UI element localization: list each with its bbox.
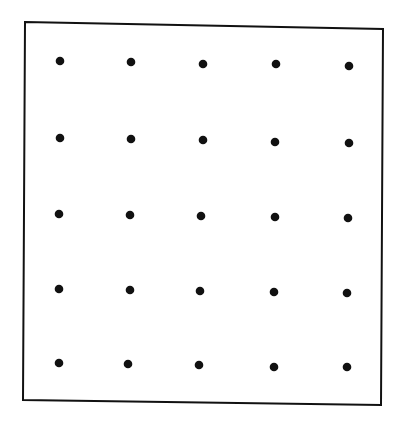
grid-dot-r3-c3	[197, 212, 206, 221]
dot-grid-diagram	[0, 0, 399, 427]
grid-dot-r5-c4	[270, 363, 279, 372]
grid-dot-r4-c4	[270, 288, 279, 297]
grid-dot-r3-c4	[271, 213, 280, 222]
grid-dot-r4-c2	[126, 286, 135, 295]
grid-dot-r1-c4	[272, 60, 281, 69]
grid-dot-r4-c5	[343, 289, 352, 298]
grid-dot-r2-c1	[56, 134, 65, 143]
grid-dot-r3-c1	[55, 210, 64, 219]
grid-dot-r4-c1	[55, 285, 64, 294]
grid-dot-r2-c2	[127, 135, 136, 144]
grid-dot-r5-c5	[343, 363, 352, 372]
grid-dot-r5-c2	[124, 360, 133, 369]
grid-dot-r3-c5	[344, 214, 353, 223]
grid-dot-r1-c3	[199, 60, 208, 69]
grid-dot-r2-c5	[345, 139, 354, 148]
grid-dot-r5-c3	[195, 361, 204, 370]
grid-dot-r5-c1	[55, 359, 64, 368]
grid-dot-r2-c3	[199, 136, 208, 145]
grid-dot-r3-c2	[126, 211, 135, 220]
grid-dot-r1-c1	[56, 57, 65, 66]
grid-dot-r1-c2	[127, 58, 136, 67]
grid-dot-r4-c3	[196, 287, 205, 296]
grid-dot-r2-c4	[271, 138, 280, 147]
grid-dot-r1-c5	[345, 62, 354, 71]
